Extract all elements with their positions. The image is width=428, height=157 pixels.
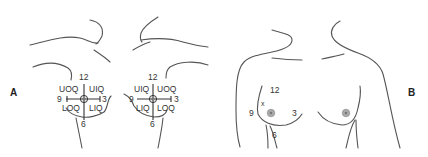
panel-b: B 12 9 3 6 x: [236, 21, 415, 148]
panel-a: A 12 9 3 6 UOQ UIQ LOQ LIQ: [10, 17, 208, 148]
clock-9: 9: [129, 94, 134, 104]
clock-12: 12: [270, 85, 280, 95]
clock-3: 3: [102, 94, 107, 104]
panel-a-label: A: [10, 87, 17, 98]
quadrant-loq: LOQ: [157, 103, 175, 113]
panel-b-torso-outline: [236, 21, 400, 148]
panel-a-right-torso-outline: [124, 17, 208, 148]
quadrant-liq: LIQ: [89, 103, 103, 113]
clock-9: 9: [249, 108, 254, 118]
quadrant-uiq: UIQ: [134, 84, 150, 94]
clock-12: 12: [148, 72, 158, 82]
quadrant-uiq: UIQ: [89, 84, 105, 94]
breast-quadrant-figure: A 12 9 3 6 UOQ UIQ LOQ LIQ: [0, 0, 428, 157]
clock-12: 12: [79, 72, 89, 82]
clock-6: 6: [81, 119, 86, 129]
lesion-marker: x: [261, 100, 265, 107]
clock-3: 3: [292, 108, 297, 118]
clock-6: 6: [150, 119, 155, 129]
quadrant-uoq: UOQ: [59, 84, 79, 94]
clock-6: 6: [272, 130, 277, 140]
quadrant-uoq: UOQ: [157, 84, 177, 94]
panel-b-label: B: [408, 87, 415, 98]
quadrant-loq: LOQ: [62, 103, 80, 113]
quadrant-liq: LIQ: [136, 103, 150, 113]
